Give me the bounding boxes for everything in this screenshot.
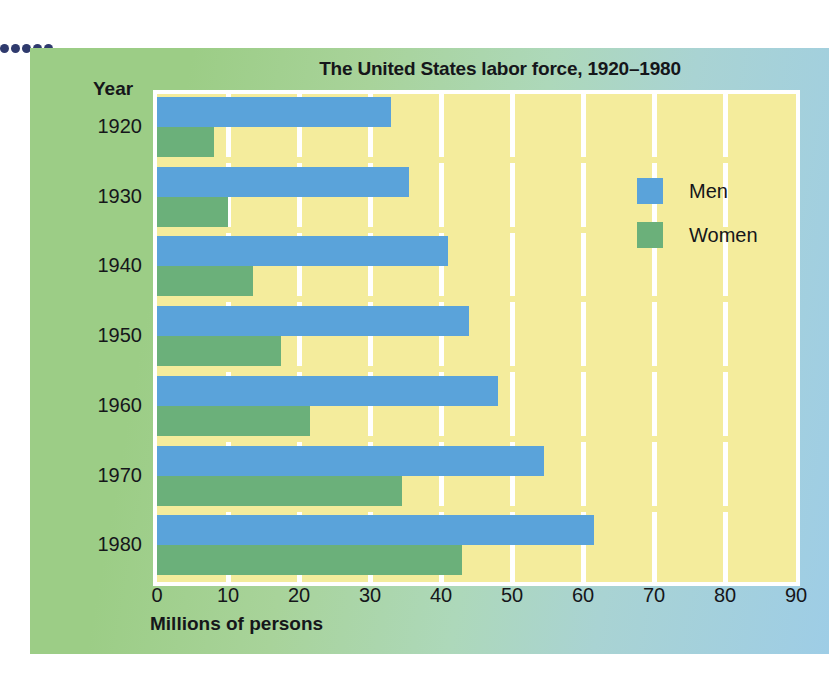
x-tick-label-20: 20: [288, 584, 310, 607]
bar-women-1920: [157, 127, 214, 157]
legend-label-men: Men: [689, 180, 728, 203]
legend-item-women: Women: [637, 213, 758, 257]
x-tick-label-50: 50: [501, 584, 523, 607]
color-swatch-icon-men: [637, 178, 663, 204]
year-tick-label-1970: 1970: [58, 464, 142, 487]
year-tick-label-1950: 1950: [58, 324, 142, 347]
x-tick-label-40: 40: [430, 584, 452, 607]
bar-men-1950: [157, 306, 469, 336]
plot-area: Men Women: [153, 90, 800, 586]
bar-women-1970: [157, 476, 402, 506]
bar-men-1980: [157, 515, 594, 545]
rule-dot: [11, 44, 20, 53]
plot-inner: [157, 94, 796, 582]
bar-women-1980: [157, 545, 462, 575]
bar-women-1930: [157, 197, 228, 227]
legend-label-women: Women: [689, 224, 758, 247]
x-tick-label-30: 30: [359, 584, 381, 607]
chart-legend: Men Women: [637, 169, 758, 257]
x-tick-label-90: 90: [785, 584, 807, 607]
bar-men-1940: [157, 236, 448, 266]
year-tick-label-1930: 1930: [58, 185, 142, 208]
bar-men-1970: [157, 446, 544, 476]
bar-women-1950: [157, 336, 281, 366]
color-swatch-icon-women: [637, 222, 663, 248]
x-tick-label-0: 0: [151, 584, 162, 607]
x-tick-label-80: 80: [714, 584, 736, 607]
row-gap: [157, 506, 796, 512]
bar-women-1940: [157, 266, 253, 296]
year-axis-header: Year: [93, 78, 133, 100]
bar-men-1930: [157, 167, 409, 197]
x-tick-label-60: 60: [572, 584, 594, 607]
chart-panel: The United States labor force, 1920–1980…: [30, 48, 829, 654]
year-tick-label-1920: 1920: [58, 115, 142, 138]
row-gap: [157, 436, 796, 442]
bar-men-1960: [157, 376, 498, 406]
rule-dot: [0, 44, 9, 53]
year-tick-label-1940: 1940: [58, 254, 142, 277]
bar-men-1920: [157, 97, 391, 127]
row-gap: [157, 157, 796, 163]
year-tick-label-1960: 1960: [58, 394, 142, 417]
bar-women-1960: [157, 406, 310, 436]
legend-item-men: Men: [637, 169, 758, 213]
chart-title: The United States labor force, 1920–1980: [220, 58, 780, 80]
x-axis-title: Millions of persons: [150, 613, 323, 635]
x-tick-label-70: 70: [643, 584, 665, 607]
x-tick-label-10: 10: [217, 584, 239, 607]
row-gap: [157, 366, 796, 372]
row-gap: [157, 296, 796, 302]
year-tick-label-1980: 1980: [58, 533, 142, 556]
